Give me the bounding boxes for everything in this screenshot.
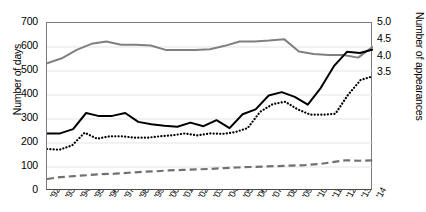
y-axis-left-tick: 600 [8,39,38,51]
x-axis-tick: '14 [374,186,388,200]
y-axis-left-tick: 400 [8,87,38,99]
y-axis-right-tick: 5.0 [377,15,399,27]
y-axis-left-tick: 300 [8,111,38,123]
y-axis-left-tick: 0 [8,183,38,195]
y-axis-right-tick: 3.5 [377,65,399,77]
plot-area [46,22,372,190]
chart-container: Number of days Number of appearances 010… [0,0,426,212]
series-line-appearances [47,39,373,63]
y-axis-left-tick: 500 [8,63,38,75]
series-line-days-series-a [47,49,373,133]
y-axis-right-tick: 4.5 [377,32,399,44]
series-line-days-series-c [47,160,373,179]
plot-svg [47,23,373,191]
y-axis-left-tick: 100 [8,159,38,171]
y-axis-left-tick: 200 [8,135,38,147]
y-axis-left-tick: 700 [8,15,38,27]
y-axis-right-tick: 4.0 [377,49,399,61]
series-line-days-series-b [47,76,373,149]
